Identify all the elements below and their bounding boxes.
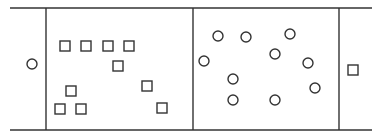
square-particle-icon xyxy=(55,104,65,114)
square-particle-icon xyxy=(81,41,91,51)
square-particle-icon xyxy=(66,86,76,96)
square-particle-icon xyxy=(103,41,113,51)
region-right-outside xyxy=(348,65,358,75)
transport-diagram xyxy=(0,0,383,140)
circle-particle-icon xyxy=(303,58,313,68)
circle-particle-icon xyxy=(285,29,295,39)
square-particle-icon xyxy=(142,81,152,91)
region-left-compartment xyxy=(55,41,167,114)
square-particle-icon xyxy=(348,65,358,75)
circle-particle-icon xyxy=(213,31,223,41)
square-particle-icon xyxy=(124,41,134,51)
square-particle-icon xyxy=(60,41,70,51)
region-right-compartment xyxy=(199,29,320,105)
square-particle-icon xyxy=(157,103,167,113)
circle-particle-icon xyxy=(310,83,320,93)
circle-particle-icon xyxy=(228,95,238,105)
circle-particle-icon xyxy=(27,59,37,69)
circle-particle-icon xyxy=(241,32,251,42)
region-left-outside xyxy=(27,59,37,69)
circle-particle-icon xyxy=(228,74,238,84)
circle-particle-icon xyxy=(199,56,209,66)
square-particle-icon xyxy=(113,61,123,71)
square-particle-icon xyxy=(76,104,86,114)
circle-particle-icon xyxy=(270,49,280,59)
circle-particle-icon xyxy=(270,95,280,105)
